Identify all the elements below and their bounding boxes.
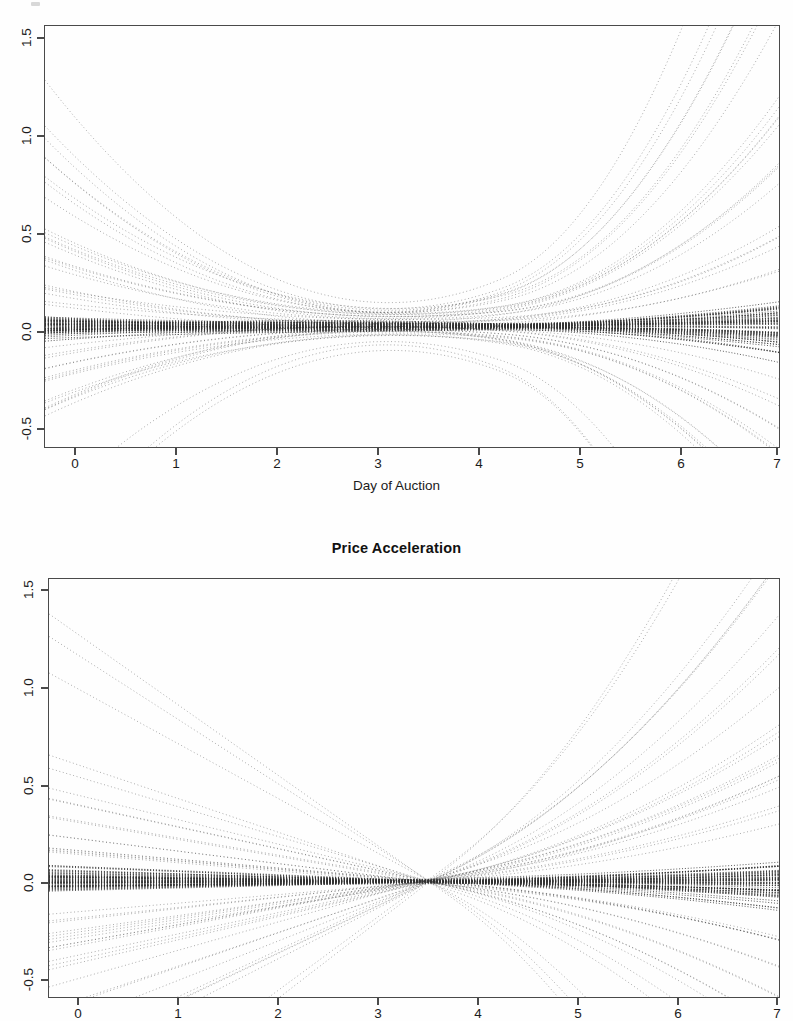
xtick-mark-acceleration-1: [177, 998, 179, 1005]
xtick-mark-acceleration-6: [677, 998, 679, 1005]
acceleration-curves: [49, 579, 779, 997]
xtick-mark-velocity-4: [478, 448, 480, 455]
xtick-label-velocity-7: 7: [757, 456, 793, 471]
ytick-mark-velocity-0-0: [37, 331, 44, 333]
xtick-label-acceleration-6: 6: [658, 1006, 698, 1021]
xtick-mark-velocity-7: [776, 448, 778, 455]
xtick-mark-acceleration-2: [277, 998, 279, 1005]
ytick-label-velocity-neg0-5: -0.5: [19, 406, 34, 452]
xtick-mark-velocity-0: [74, 448, 76, 455]
xaxis-title-velocity: Day of Auction: [0, 478, 793, 493]
ytick-mark-acceleration-1-5: [41, 589, 48, 591]
xtick-label-acceleration-5: 5: [558, 1006, 598, 1021]
panel-price-velocity: 1.5 1.0 0.5 0.0 -0.5 0 1 2 3 4 5 6 7 Day…: [0, 0, 793, 520]
ytick-mark-velocity-1-5: [37, 37, 44, 39]
xtick-mark-acceleration-7: [776, 998, 778, 1005]
xtick-label-acceleration-7: 7: [757, 1006, 793, 1021]
ytick-mark-acceleration-1-0: [41, 687, 48, 689]
xtick-mark-acceleration-3: [377, 998, 379, 1005]
ytick-label-velocity-1-5: 1.5: [19, 18, 34, 58]
xtick-mark-velocity-5: [579, 448, 581, 455]
ytick-label-acceleration-1-0: 1.0: [21, 668, 36, 708]
xtick-label-acceleration-1: 1: [158, 1006, 198, 1021]
ytick-label-acceleration-0-5: 0.5: [21, 766, 36, 806]
scan-artifact-speck: [31, 2, 40, 6]
panel-title-acceleration: Price Acceleration: [0, 540, 793, 556]
ytick-label-velocity-0-5: 0.5: [19, 214, 34, 254]
xtick-mark-velocity-3: [377, 448, 379, 455]
velocity-curves: [45, 26, 779, 447]
xtick-label-velocity-4: 4: [459, 456, 499, 471]
ytick-label-velocity-0-0: 0.0: [19, 312, 34, 352]
xtick-mark-velocity-1: [175, 448, 177, 455]
plot-area-velocity: [44, 25, 780, 448]
xtick-label-velocity-0: 0: [55, 456, 95, 471]
ytick-mark-velocity-neg0-5: [37, 428, 44, 430]
xtick-label-velocity-5: 5: [560, 456, 600, 471]
xtick-mark-velocity-2: [276, 448, 278, 455]
ytick-label-velocity-1-0: 1.0: [19, 116, 34, 156]
xtick-label-acceleration-2: 2: [258, 1006, 298, 1021]
panel-price-acceleration: Price Acceleration 1.5 1.0 0.5 0.0 -0.5 …: [0, 520, 793, 1021]
xtick-label-acceleration-0: 0: [58, 1006, 98, 1021]
ytick-mark-acceleration-neg0-5: [41, 979, 48, 981]
xtick-mark-acceleration-4: [477, 998, 479, 1005]
xtick-mark-acceleration-0: [77, 998, 79, 1005]
xtick-mark-acceleration-5: [577, 998, 579, 1005]
ytick-mark-acceleration-0-0: [41, 882, 48, 884]
ytick-mark-acceleration-0-5: [41, 785, 48, 787]
xtick-label-velocity-2: 2: [257, 456, 297, 471]
ytick-label-acceleration-0-0: 0.0: [21, 863, 36, 903]
xtick-label-acceleration-3: 3: [358, 1006, 398, 1021]
xtick-label-acceleration-4: 4: [458, 1006, 498, 1021]
plot-area-acceleration: [48, 578, 780, 998]
ytick-label-acceleration-neg0-5: -0.5: [21, 957, 36, 1003]
xtick-label-velocity-1: 1: [156, 456, 196, 471]
ytick-mark-velocity-0-5: [37, 233, 44, 235]
ytick-mark-velocity-1-0: [37, 135, 44, 137]
figure-page: 1.5 1.0 0.5 0.0 -0.5 0 1 2 3 4 5 6 7 Day…: [0, 0, 793, 1021]
ytick-label-acceleration-1-5: 1.5: [21, 570, 36, 610]
xtick-label-velocity-3: 3: [358, 456, 398, 471]
xtick-mark-velocity-6: [680, 448, 682, 455]
xtick-label-velocity-6: 6: [661, 456, 701, 471]
